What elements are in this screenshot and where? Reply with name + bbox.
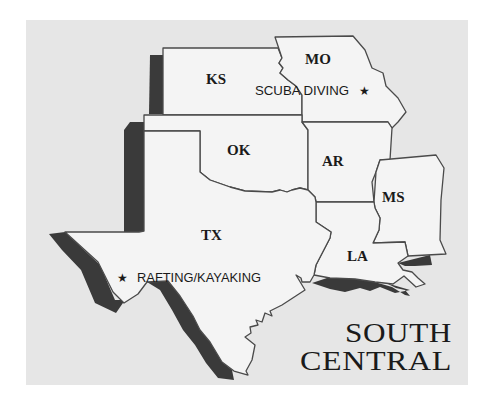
region-title-line2: CENTRAL — [300, 346, 452, 376]
poi-label-scuba-diving: SCUBA DIVING — [255, 84, 349, 98]
label-mo: MO — [305, 51, 331, 67]
star-icon: ★ — [117, 271, 128, 285]
label-tx: TX — [201, 227, 222, 243]
label-la: LA — [347, 248, 368, 264]
star-icon: ★ — [359, 84, 370, 98]
state-mississippi[interactable] — [373, 155, 446, 256]
state-kansas[interactable] — [163, 48, 302, 115]
label-ms: MS — [382, 189, 405, 205]
label-ks: KS — [206, 71, 226, 87]
oklahoma-texas-shadow — [124, 122, 144, 233]
kansas-shadow — [149, 55, 163, 114]
region-title: SOUTH CENTRAL — [300, 318, 452, 376]
label-ar: AR — [322, 153, 344, 169]
poi-label-rafting-kayaking: RAFTING/KAYAKING — [137, 271, 261, 285]
poi-rafting-kayaking[interactable]: ★ RAFTING/KAYAKING — [117, 271, 261, 285]
label-ok: OK — [227, 142, 251, 158]
south-central-map: KS MO OK AR MS TX LA SCUBA DIVING ★ ★ RA… — [0, 0, 484, 400]
region-title-line1: SOUTH — [345, 318, 452, 348]
